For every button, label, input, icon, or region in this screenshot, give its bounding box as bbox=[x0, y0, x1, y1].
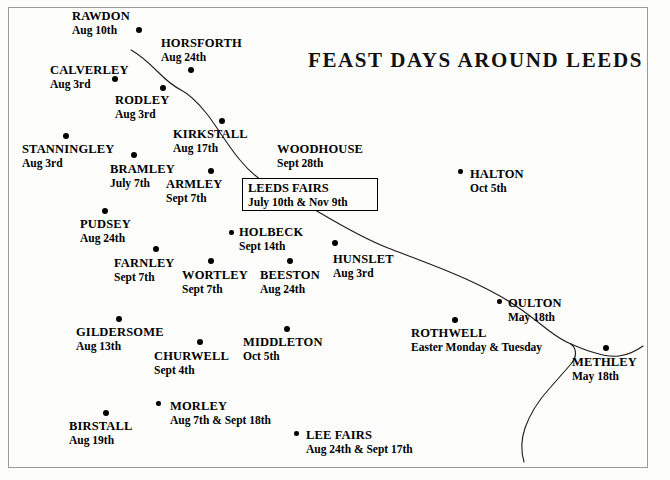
settlement-label[interactable]: MORLEYAug 7th & Sept 18th bbox=[170, 400, 271, 427]
settlement-feast-date: Aug 24th bbox=[161, 51, 242, 64]
settlement-feast-date: Aug 13th bbox=[76, 340, 164, 353]
settlement-name: OULTON bbox=[508, 297, 562, 310]
settlement-name: RAWDON bbox=[72, 10, 130, 23]
settlement-label[interactable]: PUDSEYAug 24th bbox=[80, 218, 131, 245]
settlement-dot[interactable] bbox=[219, 118, 225, 124]
settlement-label[interactable]: HALTONOct 5th bbox=[470, 168, 524, 195]
settlement-dot[interactable] bbox=[103, 410, 109, 416]
settlement-name: WORTLEY bbox=[182, 269, 248, 282]
settlement-feast-date: Sept 7th bbox=[114, 271, 175, 284]
settlement-dot[interactable] bbox=[102, 208, 108, 214]
settlement-dot[interactable] bbox=[332, 240, 338, 246]
settlement-feast-date: Sept 28th bbox=[277, 157, 363, 170]
settlement-dot[interactable] bbox=[63, 133, 69, 139]
settlement-label[interactable]: LEE FAIRSAug 24th & Sept 17th bbox=[306, 429, 413, 456]
settlement-feast-date: Aug 3rd bbox=[50, 78, 129, 91]
settlement-label[interactable]: CHURWELLSept 4th bbox=[154, 350, 229, 377]
settlement-dot[interactable] bbox=[603, 345, 609, 351]
settlement-dot[interactable] bbox=[188, 67, 194, 73]
settlement-label[interactable]: ARMLEYSept 7th bbox=[166, 178, 222, 205]
settlement-name: BIRSTALL bbox=[69, 420, 133, 433]
settlement-dot[interactable] bbox=[136, 27, 142, 33]
settlement-dot[interactable] bbox=[153, 246, 159, 252]
settlement-dot[interactable] bbox=[497, 299, 502, 304]
settlement-name: ARMLEY bbox=[166, 178, 222, 191]
settlement-feast-date: Sept 7th bbox=[166, 192, 222, 205]
leeds-fairs-date: July 10th & Nov 9th bbox=[248, 195, 377, 209]
page-title: FEAST DAYS AROUND LEEDS bbox=[308, 48, 643, 73]
settlement-name: HALTON bbox=[470, 168, 524, 181]
settlement-name: METHLEY bbox=[572, 356, 637, 369]
settlement-feast-date: Sept 14th bbox=[239, 240, 303, 253]
settlement-name: KIRKSTALL bbox=[173, 128, 248, 141]
settlement-dot[interactable] bbox=[156, 401, 161, 406]
settlement-label[interactable]: MIDDLETONOct 5th bbox=[243, 336, 323, 363]
settlement-label[interactable]: BEESTONAug 24th bbox=[260, 269, 320, 296]
settlement-name: RODLEY bbox=[115, 94, 169, 107]
river-calder-path bbox=[522, 344, 576, 462]
settlement-dot[interactable] bbox=[208, 168, 214, 174]
settlement-name: CHURWELL bbox=[154, 350, 229, 363]
settlement-name: HOLBECK bbox=[239, 226, 303, 239]
settlement-name: LEE FAIRS bbox=[306, 429, 413, 442]
settlement-label[interactable]: METHLEYMay 18th bbox=[572, 356, 637, 383]
leeds-fairs-name: LEEDS FAIRS bbox=[248, 181, 377, 195]
settlement-dot[interactable] bbox=[229, 230, 234, 235]
settlement-name: FARNLEY bbox=[114, 257, 175, 270]
settlement-feast-date: Aug 17th bbox=[173, 142, 248, 155]
settlement-dot[interactable] bbox=[458, 169, 463, 174]
settlement-label[interactable]: RAWDONAug 10th bbox=[72, 10, 130, 37]
settlement-label[interactable]: KIRKSTALLAug 17th bbox=[173, 128, 248, 155]
leeds-fairs-callout[interactable]: LEEDS FAIRS July 10th & Nov 9th bbox=[242, 178, 378, 211]
settlement-label[interactable]: WOODHOUSESept 28th bbox=[277, 143, 363, 170]
settlement-feast-date: Easter Monday & Tuesday bbox=[411, 341, 542, 354]
feast-days-map: FEAST DAYS AROUND LEEDS RAWDONAug 10thHO… bbox=[0, 0, 670, 480]
settlement-feast-date: May 18th bbox=[572, 370, 637, 383]
settlement-label[interactable]: CALVERLEYAug 3rd bbox=[50, 64, 129, 91]
settlement-dot[interactable] bbox=[284, 326, 290, 332]
settlement-dot[interactable] bbox=[452, 317, 458, 323]
settlement-name: STANNINGLEY bbox=[22, 143, 114, 156]
settlement-feast-date: Aug 7th & Sept 18th bbox=[170, 414, 271, 427]
settlement-label[interactable]: STANNINGLEYAug 3rd bbox=[22, 143, 114, 170]
settlement-label[interactable]: OULTONMay 18th bbox=[508, 297, 562, 324]
settlement-feast-date: Aug 24th bbox=[80, 232, 131, 245]
settlement-feast-date: Oct 5th bbox=[470, 182, 524, 195]
settlement-label[interactable]: GILDERSOMEAug 13th bbox=[76, 326, 164, 353]
settlement-feast-date: Sept 4th bbox=[154, 364, 229, 377]
settlement-dot[interactable] bbox=[294, 431, 299, 436]
settlement-label[interactable]: HUNSLETAug 3rd bbox=[333, 253, 394, 280]
settlement-name: MIDDLETON bbox=[243, 336, 323, 349]
settlement-dot[interactable] bbox=[160, 85, 166, 91]
settlement-label[interactable]: ROTHWELLEaster Monday & Tuesday bbox=[411, 327, 542, 354]
settlement-name: CALVERLEY bbox=[50, 64, 129, 77]
settlement-name: HORSFORTH bbox=[161, 37, 242, 50]
settlement-label[interactable]: HOLBECKSept 14th bbox=[239, 226, 303, 253]
settlement-feast-date: May 18th bbox=[508, 311, 562, 324]
settlement-dot[interactable] bbox=[208, 258, 214, 264]
settlement-dot[interactable] bbox=[131, 152, 137, 158]
settlement-feast-date: Aug 24th bbox=[260, 283, 320, 296]
settlement-name: BEESTON bbox=[260, 269, 320, 282]
settlement-label[interactable]: HORSFORTHAug 24th bbox=[161, 37, 242, 64]
settlement-feast-date: Oct 5th bbox=[243, 350, 323, 363]
settlement-name: HUNSLET bbox=[333, 253, 394, 266]
settlement-name: BRAMLEY bbox=[110, 163, 175, 176]
settlement-dot[interactable] bbox=[197, 339, 203, 345]
settlement-label[interactable]: WORTLEYSept 7th bbox=[182, 269, 248, 296]
settlement-feast-date: Aug 19th bbox=[69, 434, 133, 447]
settlement-feast-date: Aug 10th bbox=[72, 24, 130, 37]
settlement-name: GILDERSOME bbox=[76, 326, 164, 339]
settlement-feast-date: Aug 3rd bbox=[22, 157, 114, 170]
settlement-label[interactable]: FARNLEYSept 7th bbox=[114, 257, 175, 284]
settlement-dot[interactable] bbox=[287, 258, 293, 264]
settlement-name: ROTHWELL bbox=[411, 327, 542, 340]
settlement-dot[interactable] bbox=[116, 316, 122, 322]
settlement-name: WOODHOUSE bbox=[277, 143, 363, 156]
settlement-feast-date: Sept 7th bbox=[182, 283, 248, 296]
settlement-feast-date: Aug 3rd bbox=[115, 108, 169, 121]
settlement-feast-date: Aug 24th & Sept 17th bbox=[306, 443, 413, 456]
settlement-label[interactable]: RODLEYAug 3rd bbox=[115, 94, 169, 121]
settlement-feast-date: Aug 3rd bbox=[333, 267, 394, 280]
settlement-label[interactable]: BIRSTALLAug 19th bbox=[69, 420, 133, 447]
